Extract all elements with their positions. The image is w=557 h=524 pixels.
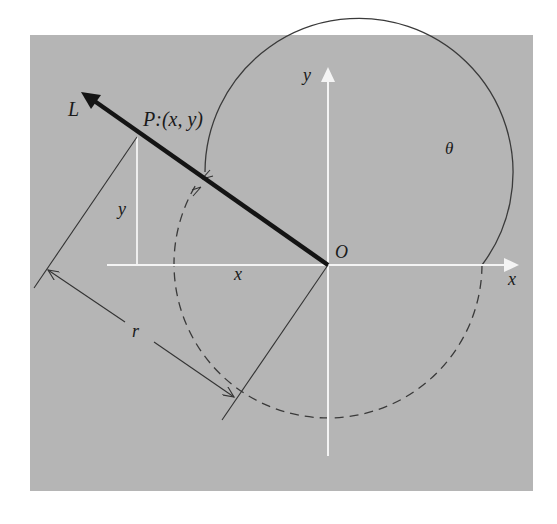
label-point-P: P:(x, y) [142,108,203,131]
label-y-axis: y [301,65,311,85]
label-L: L [67,98,79,120]
rotation-diagram: L P:(x, y) y θ O x y x r [0,0,557,524]
label-origin: O [335,242,348,262]
label-theta: θ [445,139,453,158]
label-x-axis: x [507,269,516,289]
label-x-segment: x [233,264,242,284]
label-radius: r [132,321,140,341]
label-y-segment: y [116,199,126,219]
diagram-panel [30,35,533,491]
